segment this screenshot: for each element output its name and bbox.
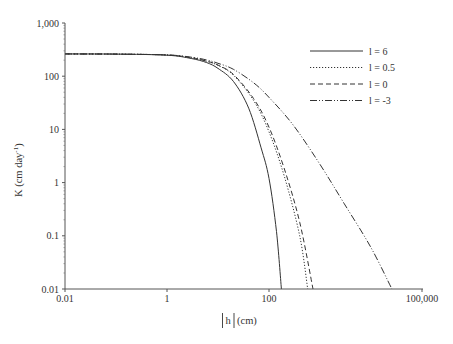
legend-label-0: l = 6 xyxy=(369,46,387,57)
x-axis-title-h: h xyxy=(226,315,232,326)
x-tick-label: 100 xyxy=(262,293,277,304)
legend-label-1: l = 0.5 xyxy=(369,62,395,73)
x-axis-title-unit: (cm) xyxy=(237,315,257,327)
y-tick-label: 0.1 xyxy=(47,230,60,241)
series-line-2 xyxy=(65,54,313,289)
y-tick-label: 100 xyxy=(44,71,59,82)
series-line-1 xyxy=(65,54,308,289)
y-axis-title-text: K (cm day-1) xyxy=(12,143,25,197)
legend: l = 6l = 0.5l = 0l = -3 xyxy=(310,46,395,107)
x-axis-title: h (cm) xyxy=(223,313,258,328)
chart: 0.010.11101001,000 0.011100100,000 h (cm… xyxy=(0,0,453,344)
series-line-0 xyxy=(65,54,281,289)
y-tick-label: 1 xyxy=(54,177,59,188)
series-line-3 xyxy=(65,54,392,289)
x-tick-label: 0.01 xyxy=(56,293,74,304)
x-tick-label: 1 xyxy=(165,293,170,304)
y-tick-label: 10 xyxy=(49,124,59,135)
legend-label-2: l = 0 xyxy=(369,79,387,90)
y-axis-title-main: K (cm day xyxy=(13,152,25,197)
plot-lines xyxy=(65,54,392,289)
legend-label-3: l = -3 xyxy=(369,95,391,106)
y-tick-label: 1,000 xyxy=(37,18,60,29)
x-tick-label: 100,000 xyxy=(406,293,439,304)
x-ticks: 0.011100100,000 xyxy=(56,289,438,304)
y-axis-title-close: ) xyxy=(13,143,25,147)
y-axis-title: K (cm day-1) xyxy=(12,143,25,197)
axes: 0.010.11101001,000 0.011100100,000 xyxy=(37,18,439,305)
y-ticks: 0.010.11101001,000 xyxy=(37,18,66,295)
